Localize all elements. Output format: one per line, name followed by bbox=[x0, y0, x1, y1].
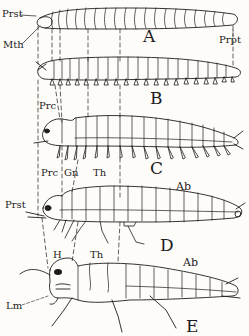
leader-mth bbox=[22, 26, 40, 44]
annotation-th-e: Th bbox=[90, 250, 103, 260]
annotation-ab-c: Ab bbox=[176, 181, 191, 192]
organism-a bbox=[37, 8, 237, 29]
organism-b bbox=[36, 57, 240, 85]
annotation-prst-d: Prst bbox=[5, 200, 26, 210]
annotation-lm: Lm bbox=[6, 301, 22, 311]
panel-label-a: A bbox=[143, 28, 155, 45]
annotation-gn: Gn bbox=[64, 168, 78, 178]
panel-label-b: B bbox=[150, 90, 163, 107]
panel-label-e: E bbox=[186, 318, 198, 335]
annotation-ab-d: Ab bbox=[183, 257, 198, 268]
organism-e bbox=[20, 258, 240, 332]
annotation-th-c: Th bbox=[93, 168, 106, 178]
organism-c bbox=[34, 116, 243, 160]
annotation-h: H bbox=[53, 250, 62, 260]
panel-label-c: C bbox=[150, 160, 163, 177]
annotation-prc-c: Prc bbox=[41, 168, 58, 178]
annotation-prst-a: Prst bbox=[2, 9, 23, 19]
evolution-diagram: A B C D E Prst Mth Prpt Prc Prc Gn Th Ab… bbox=[0, 0, 249, 336]
annotation-prpt: Prpt bbox=[219, 35, 241, 45]
panel-label-d: D bbox=[160, 237, 174, 254]
annotation-prc-b: Prc bbox=[39, 101, 56, 111]
diagram-drawing bbox=[0, 0, 249, 336]
annotation-mth: Mth bbox=[3, 40, 24, 50]
organism-d bbox=[26, 186, 245, 244]
